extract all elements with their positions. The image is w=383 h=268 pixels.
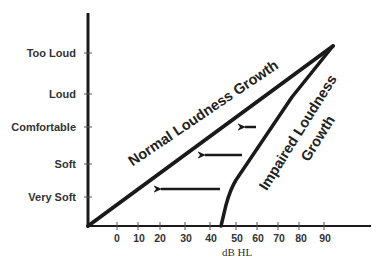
normal-loudness-label: Normal Loudness Growth: [125, 57, 281, 169]
chart-svg: Too Loud Loud Comfortable Soft Very Soft…: [0, 0, 383, 268]
y-label-soft: Soft: [55, 158, 77, 170]
x-label-40: 40: [205, 232, 217, 244]
y-label-loud: Loud: [49, 88, 76, 100]
x-label-0: 0: [114, 232, 120, 244]
x-label-60: 60: [252, 232, 264, 244]
x-label-10: 10: [133, 232, 145, 244]
x-axis-title: dB HL: [222, 246, 253, 258]
y-label-very-soft: Very Soft: [28, 191, 76, 203]
loudness-growth-diagram: Too Loud Loud Comfortable Soft Very Soft…: [0, 0, 383, 268]
x-label-80: 80: [295, 232, 307, 244]
x-label-50: 50: [231, 232, 243, 244]
x-label-30: 30: [180, 232, 192, 244]
x-label-20: 20: [154, 232, 166, 244]
y-label-comfortable: Comfortable: [11, 121, 76, 133]
y-label-too-loud: Too Loud: [27, 47, 76, 59]
x-label-90: 90: [319, 232, 331, 244]
x-label-70: 70: [273, 232, 285, 244]
